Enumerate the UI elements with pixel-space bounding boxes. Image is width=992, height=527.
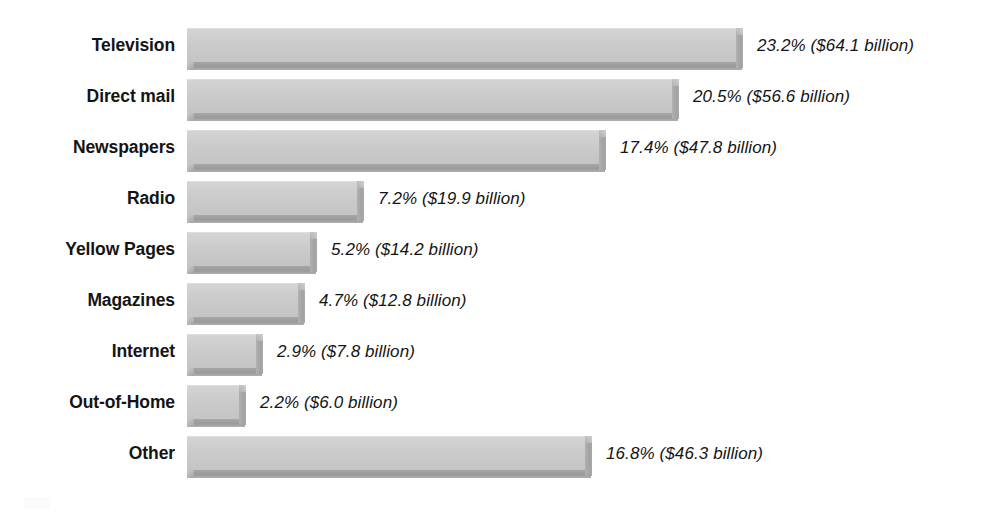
value-label: 20.5% ($56.6 billion): [693, 88, 850, 105]
value-label: 16.8% ($46.3 billion): [606, 445, 763, 462]
bar-right-chamfer: [672, 79, 679, 86]
bar-right-face: [599, 136, 606, 170]
category-label: Magazines: [0, 292, 175, 310]
bar-right-chamfer: [239, 385, 246, 392]
value-label: 7.2% ($19.9 billion): [378, 190, 526, 207]
category-label: Other: [0, 445, 175, 463]
bar-top-face: [187, 385, 239, 419]
bar-right-face: [585, 442, 592, 476]
bar-right-face: [357, 187, 364, 221]
bar-row: Other16.8% ($46.3 billion): [0, 436, 992, 487]
bar: [187, 283, 305, 325]
bar-left-chamfer: [187, 266, 194, 274]
bar-right-face: [310, 238, 317, 272]
bar-right-chamfer: [357, 181, 364, 188]
bar-right-chamfer: [585, 436, 592, 443]
bar-top-face: [187, 232, 310, 266]
value-label: 23.2% ($64.1 billion): [757, 37, 914, 54]
value-label: 17.4% ($47.8 billion): [620, 139, 777, 156]
bar-right-face: [239, 391, 246, 425]
bar-row: Television23.2% ($64.1 billion): [0, 28, 992, 79]
bar-row: Newspapers17.4% ($47.8 billion): [0, 130, 992, 181]
bar-row: Yellow Pages5.2% ($14.2 billion): [0, 232, 992, 283]
bar-left-chamfer: [187, 317, 194, 325]
bar-bottom-face: [193, 164, 605, 172]
bar-left-chamfer: [187, 215, 194, 223]
bar-row: Direct mail20.5% ($56.6 billion): [0, 79, 992, 130]
bar-bottom-face: [193, 419, 245, 427]
value-label: 2.2% ($6.0 billion): [260, 394, 398, 411]
bar-right-face: [256, 340, 263, 374]
bar: [187, 334, 263, 376]
bar-bottom-face: [193, 62, 742, 70]
bar-left-chamfer: [187, 470, 194, 478]
bar-row: Magazines4.7% ($12.8 billion): [0, 283, 992, 334]
bar-right-chamfer: [298, 283, 305, 290]
bar-right-chamfer: [256, 334, 263, 341]
bar-row: Out-of-Home2.2% ($6.0 billion): [0, 385, 992, 436]
bar-left-chamfer: [187, 113, 194, 121]
bar-right-chamfer: [310, 232, 317, 239]
bar-bottom-face: [193, 266, 316, 274]
bar-bottom-face: [193, 317, 304, 325]
bar-right-face: [298, 289, 305, 323]
value-label: 4.7% ($12.8 billion): [319, 292, 467, 309]
scan-artifact: [24, 497, 50, 509]
bar-right-face: [736, 34, 743, 68]
category-label: Yellow Pages: [0, 241, 175, 259]
category-label: Internet: [0, 343, 175, 361]
bar: [187, 436, 592, 478]
bar-bottom-face: [193, 368, 262, 376]
bar: [187, 385, 246, 427]
bar: [187, 232, 317, 274]
value-label: 2.9% ($7.8 billion): [277, 343, 415, 360]
bar-left-chamfer: [187, 62, 194, 70]
bar-top-face: [187, 334, 256, 368]
bar-left-chamfer: [187, 419, 194, 427]
bar-top-face: [187, 436, 585, 470]
category-label: Out-of-Home: [0, 394, 175, 412]
bar-row: Internet2.9% ($7.8 billion): [0, 334, 992, 385]
bar-top-face: [187, 79, 672, 113]
bar-right-chamfer: [736, 28, 743, 35]
bar-row: Radio7.2% ($19.9 billion): [0, 181, 992, 232]
bar: [187, 130, 606, 172]
bar-left-chamfer: [187, 164, 194, 172]
bar: [187, 79, 679, 121]
category-label: Television: [0, 37, 175, 55]
bar-top-face: [187, 130, 599, 164]
bar: [187, 28, 743, 70]
bar-bottom-face: [193, 470, 591, 478]
category-label: Radio: [0, 190, 175, 208]
bar-left-chamfer: [187, 368, 194, 376]
bar: [187, 181, 364, 223]
category-label: Newspapers: [0, 139, 175, 157]
bar-right-face: [672, 85, 679, 119]
bar-bottom-face: [193, 215, 363, 223]
bar-top-face: [187, 181, 357, 215]
bar-chart: Television23.2% ($64.1 billion)Direct ma…: [0, 0, 992, 527]
bar-right-chamfer: [599, 130, 606, 137]
category-label: Direct mail: [0, 88, 175, 106]
bar-bottom-face: [193, 113, 678, 121]
bar-top-face: [187, 283, 298, 317]
bar-top-face: [187, 28, 736, 62]
value-label: 5.2% ($14.2 billion): [331, 241, 479, 258]
